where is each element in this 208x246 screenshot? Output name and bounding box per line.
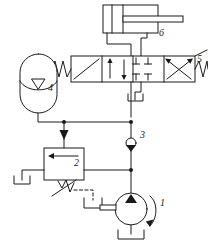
callout-label-1: 1 [160,198,165,208]
callout-label-2: 2 [74,158,79,168]
callout-label-5: 5 [197,54,202,64]
cylinder-port-lines [107,33,147,56]
schematic-canvas [0,0,208,246]
valve-supply-return-lines [128,82,143,117]
callout-label-3: 3 [140,130,145,140]
directional-valve-symbol [51,50,208,82]
callout-label-4: 4 [48,83,53,93]
hydraulic-circuit-diagram: 1 2 3 4 5 6 [0,0,208,246]
cylinder-symbol [103,5,183,33]
check-valve-symbol [126,138,136,152]
pilot-line [60,122,69,148]
pump-symbol [100,193,156,239]
relief-valve-symbol [14,148,131,208]
callout-label-6: 6 [159,28,164,38]
